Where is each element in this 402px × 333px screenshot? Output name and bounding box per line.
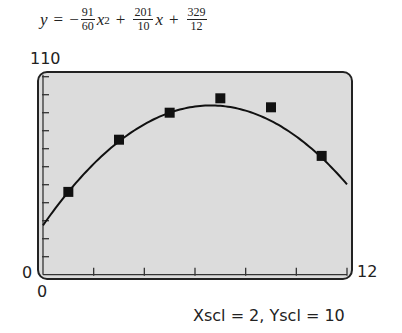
data-point-marker (215, 93, 225, 103)
screen-frame (38, 72, 352, 279)
data-point-marker (317, 151, 327, 161)
graph-screen (0, 0, 402, 333)
data-point-marker (114, 135, 124, 145)
data-point-marker (63, 187, 73, 197)
data-point-marker (165, 108, 175, 118)
data-point-marker (266, 102, 276, 112)
